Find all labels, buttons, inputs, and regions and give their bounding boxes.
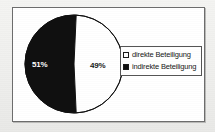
legend-item-label: direkte Beteiligung	[132, 50, 191, 60]
legend-item-label: indirekte Beteiligung	[132, 62, 196, 72]
black-square-icon	[123, 64, 129, 70]
chart-frame: 51% 49% direkte Beteiligung indirekte Be…	[12, 7, 205, 122]
white-square-icon	[123, 52, 129, 58]
legend-item-indirekte-beteiligung: indirekte Beteiligung	[123, 61, 198, 73]
pie-label-direkte-beteiligung: 49%	[90, 61, 105, 70]
pie-chart: 51% 49%	[18, 8, 128, 120]
chart-legend: direkte Beteiligung indirekte Beteiligun…	[120, 46, 202, 76]
pie-label-indirekte-beteiligung: 51%	[32, 60, 47, 69]
screenshot-root: 51% 49% direkte Beteiligung indirekte Be…	[0, 0, 215, 132]
legend-item-direkte-beteiligung: direkte Beteiligung	[123, 49, 198, 61]
